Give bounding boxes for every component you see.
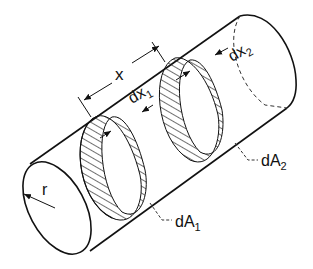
ring-dA2 [159,58,223,162]
label-dx1: dx1 [125,80,155,109]
radius-arrow [24,194,55,208]
label-dx2: dx2 [225,38,255,67]
label-r: r [42,181,48,198]
hidden-edges [234,16,287,108]
label-dA1: dA1 [175,213,201,233]
label-x: x [115,65,124,84]
label-dA2: dA2 [261,152,287,172]
ring-dA1 [80,116,146,220]
cylinder-diagram: x dx1 dx2 r dA1 dA2 [0,0,313,269]
